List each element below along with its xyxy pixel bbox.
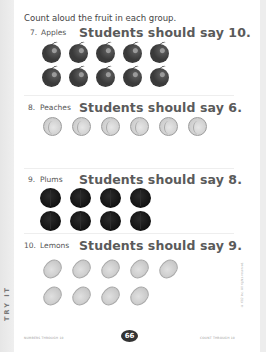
question-number: 8.: [28, 103, 35, 112]
plum-icon: [100, 188, 120, 208]
lemon-group: [44, 259, 189, 306]
page-number-badge: 66: [121, 330, 138, 342]
plum-icon: [130, 188, 150, 208]
plum-group: [40, 188, 160, 231]
answer-text: Students should say 8.: [79, 172, 242, 187]
footer-unit-title: NUMBERS THROUGH 10: [24, 336, 64, 340]
lemon-icon: [131, 286, 151, 306]
answer-text: Students should say 9.: [79, 238, 242, 253]
question-number: 10.: [24, 241, 36, 250]
page-right-edge: [259, 0, 266, 352]
divider: [24, 168, 234, 169]
fruit-label: Peaches: [40, 103, 71, 112]
plum-icon: [70, 211, 90, 231]
lemon-icon: [44, 286, 64, 306]
peach-icon: [188, 117, 208, 137]
apple-group: [42, 42, 177, 86]
fruit-label: Plums: [40, 175, 63, 184]
plum-icon: [100, 211, 120, 231]
apple-icon: [69, 42, 89, 62]
lemon-icon: [160, 259, 180, 279]
footer-lesson-title: COUNT THROUGH 10: [200, 336, 235, 340]
answer-text: Students should say 6.: [79, 100, 242, 115]
apple-icon: [96, 42, 116, 62]
apple-icon: [42, 66, 62, 86]
apple-icon: [69, 66, 89, 86]
instruction-text: Count aloud the fruit in each group.: [24, 13, 176, 23]
plum-icon: [40, 188, 60, 208]
plum-icon: [40, 211, 60, 231]
try-it-tab: TRY IT: [3, 286, 11, 321]
apple-icon: [150, 42, 170, 62]
apple-icon: [96, 66, 116, 86]
copyright-text: © K12 Inc. All rights reserved.: [240, 258, 244, 308]
question-number: 7.: [30, 28, 37, 37]
divider: [24, 233, 234, 234]
answer-text: Students should say 10.: [79, 25, 251, 40]
question-number: 9.: [28, 175, 35, 184]
peach-icon: [72, 117, 92, 137]
plum-icon: [130, 211, 150, 231]
divider: [24, 95, 234, 96]
peach-icon: [101, 117, 121, 137]
fruit-label: Lemons: [40, 241, 69, 250]
peach-icon: [159, 117, 179, 137]
lemon-icon: [102, 259, 122, 279]
lemon-icon: [44, 259, 64, 279]
peach-group: [43, 117, 217, 137]
peach-icon: [130, 117, 150, 137]
lemon-icon: [131, 259, 151, 279]
apple-icon: [123, 42, 143, 62]
peach-icon: [43, 117, 63, 137]
apple-icon: [123, 66, 143, 86]
fruit-label: Apples: [41, 28, 66, 37]
plum-icon: [70, 188, 90, 208]
lemon-icon: [102, 286, 122, 306]
lemon-icon: [73, 259, 93, 279]
lemon-icon: [73, 286, 93, 306]
apple-icon: [42, 42, 62, 62]
apple-icon: [150, 66, 170, 86]
